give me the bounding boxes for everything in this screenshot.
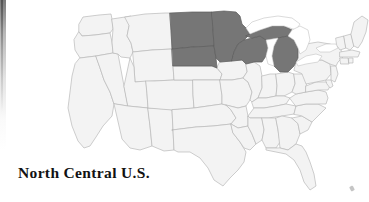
state-maine[interactable]	[351, 16, 368, 48]
state-missouri[interactable]	[220, 78, 252, 108]
map-caption: North Central U.S.	[18, 163, 150, 182]
state-new-jersey[interactable]	[331, 66, 338, 82]
state-arizona[interactable]	[114, 104, 152, 150]
state-montana[interactable]	[125, 13, 172, 52]
map-figure: North Central U.S.	[0, 0, 369, 202]
state-new-mexico[interactable]	[148, 108, 174, 151]
state-massachusetts[interactable]	[340, 50, 360, 57]
state-wyoming[interactable]	[133, 49, 174, 82]
state-nebraska[interactable]	[173, 66, 222, 80]
state-colorado[interactable]	[146, 80, 194, 110]
state-rhode-island[interactable]	[349, 58, 353, 63]
state-iowa[interactable]	[217, 60, 247, 80]
state-south-dakota[interactable]	[172, 46, 217, 68]
state-kansas[interactable]	[193, 80, 222, 108]
state-connecticut[interactable]	[340, 58, 349, 64]
state-north-dakota[interactable]	[170, 12, 214, 49]
state-washington[interactable]	[79, 14, 113, 36]
state-florida[interactable]	[266, 144, 316, 190]
